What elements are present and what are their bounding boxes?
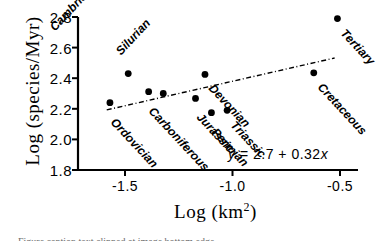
data-point-marker [125,70,132,77]
data-point-marker [192,95,199,102]
equation-x: x [321,146,329,162]
x-axis-tick-label: -1.5 [95,178,155,194]
scatter-plot-figure: Log (species/Myr) 2.82.62.42.22.01.8 -1.… [0,0,388,241]
equation-intercept: 2.7 [253,146,274,162]
equation-plus: + [274,146,291,162]
x-axis-tick-label: -1.0 [203,178,263,194]
figure-caption-sliver: Figure caption text clipped at image bot… [0,236,388,241]
x-axis-tick-label: -0.5 [310,178,370,194]
data-point-marker [160,90,167,97]
data-point-marker [202,71,209,78]
regression-equation: y = 2.7 + 0.32x [228,146,328,162]
data-point-marker [310,69,317,76]
x-axis-title-base: Log (km [174,201,243,222]
data-point-marker [107,99,114,106]
data-point-marker [145,88,152,95]
equation-slope: 0.32 [291,146,320,162]
x-axis-title-close: ) [250,201,257,222]
data-point-marker [334,15,341,22]
equation-y: y [228,146,236,162]
equation-eq: = [236,146,253,162]
x-axis-title: Log (km2) [78,200,353,223]
